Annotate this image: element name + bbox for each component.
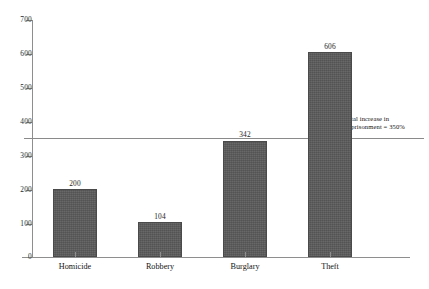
x-tick-homicide [75,252,76,257]
y-tick-label: 600 [8,50,32,57]
bar-value-burglary: 342 [223,131,267,138]
y-tick-label: 300 [8,152,32,159]
x-tick-robbery [160,252,161,257]
bar-value-homicide: 200 [53,180,97,187]
y-tick-label: 200 [8,186,32,193]
y-tick-group: 300 [0,156,32,157]
y-tick-group: 200 [0,190,32,191]
category-label-theft: Theft [295,262,365,271]
category-label-burglary: Burglary [210,262,280,271]
y-tick-group: 100 [0,224,32,225]
y-axis-line [32,20,33,258]
y-tick-group: 500 [0,88,32,89]
y-tick-label: 0 [8,253,32,260]
y-tick-label: 500 [8,84,32,91]
y-tick-group: 400 [0,122,32,123]
bar-value-robbery: 104 [138,213,182,220]
y-tick-group: 600 [0,54,32,55]
category-label-homicide: Homicide [40,262,110,271]
bar-theft[interactable] [308,52,352,257]
x-tick-burglary [245,252,246,257]
bar-homicide[interactable] [53,189,97,257]
reference-line-annotation-line2: imprisonment = 350% [344,123,405,131]
bar-value-theft: 606 [308,43,352,50]
y-tick-group: 700 [0,20,32,21]
y-tick-label: 700 [8,16,32,23]
y-tick-label: 400 [8,118,32,125]
bar-burglary[interactable] [223,141,267,257]
x-tick-theft [330,252,331,257]
bar-chart: 700 600 500 400 300 200 100 0 Total incr… [0,0,429,289]
y-tick-label: 100 [8,220,32,227]
x-axis-line [22,257,410,258]
y-tick-group: 0 [0,257,32,258]
category-label-robbery: Robbery [125,262,195,271]
